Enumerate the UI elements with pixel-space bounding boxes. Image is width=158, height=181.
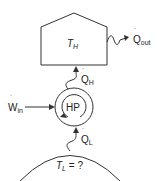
house — [41, 13, 107, 65]
w-in-dot: ˙ — [10, 94, 13, 103]
house-roof — [41, 13, 107, 27]
ground-temp-label: TL = ? — [56, 160, 83, 172]
arrowhead-icon — [73, 66, 79, 72]
arrowhead-icon — [73, 127, 79, 133]
q-h-dot: ˙ — [82, 67, 85, 76]
q-l-arrow — [67, 127, 79, 151]
arrowhead-icon — [124, 35, 129, 41]
q-out-dot: ˙ — [134, 27, 137, 36]
w-in-arrow — [25, 104, 55, 110]
w-in-label: Win — [8, 102, 23, 114]
house-temp-label: TH — [67, 38, 79, 50]
arrowhead-icon — [49, 104, 55, 110]
q-out-arrow — [107, 35, 129, 45]
q-l-dot: ˙ — [82, 127, 85, 136]
q-h-arrow — [66, 66, 79, 89]
heat-pump-diagram: TH Qout ˙ QH ˙ HP Win ˙ QL ˙ TL = ? — [0, 0, 158, 181]
heat-pump-label: HP — [66, 102, 80, 113]
